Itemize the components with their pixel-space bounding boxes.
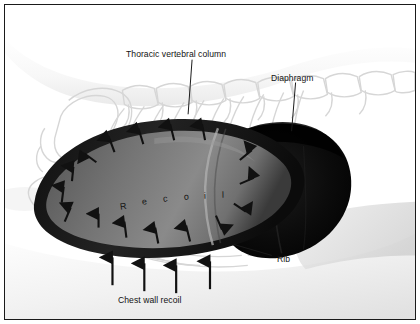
label-diaphragm: Diaphragm	[271, 74, 313, 83]
recoil-letter-4: i	[204, 191, 206, 201]
label-thoracic-vertebral-column: Thoracic vertebral column	[126, 50, 226, 59]
label-chest-wall-recoil: Chest wall recoil	[118, 296, 181, 305]
recoil-letter-5: l	[222, 190, 224, 200]
label-rib: Rib	[277, 255, 290, 264]
recoil-letter-3: o	[184, 192, 190, 202]
figure-root: R e c o i l	[0, 0, 420, 324]
figure-frame: R e c o i l	[4, 4, 416, 320]
